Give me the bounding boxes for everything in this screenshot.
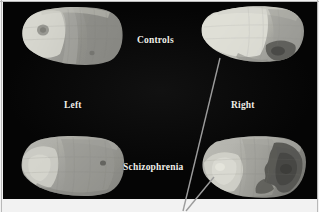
figure-border-top: [0, 1, 319, 2]
brain-surface-figure: Controls Left Right Schizophrenia: [0, 0, 319, 212]
brain-map-schizophrenia-right: [196, 135, 310, 199]
label-schizophrenia: Schizophrenia: [123, 162, 184, 172]
brain-map-controls-left: [18, 6, 128, 68]
label-right-hemisphere: Right: [231, 100, 255, 110]
figure-border-left: [1, 0, 2, 212]
figure-border-right: [317, 0, 318, 212]
imaging-panel: Controls Left Right Schizophrenia: [3, 2, 317, 199]
brain-map-schizophrenia-left: [17, 135, 129, 199]
brain-map-controls-right: [196, 5, 308, 67]
label-left-hemisphere: Left: [64, 100, 82, 110]
label-controls: Controls: [137, 35, 174, 45]
